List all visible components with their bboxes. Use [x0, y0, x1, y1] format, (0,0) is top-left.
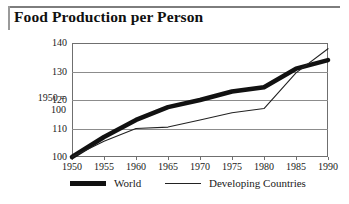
chart-figure: Food Production per Person 1950 = 100 10…: [0, 0, 349, 204]
x-tick-mark-1970: [200, 157, 201, 160]
chart-legend: World Developing Countries: [0, 176, 349, 196]
y-tick-110: 110: [41, 124, 67, 134]
x-tick-mark-1960: [136, 157, 137, 160]
gridline-110: [72, 129, 328, 130]
x-tick-mark-1950: [72, 157, 73, 160]
thin-line-swatch-icon: [165, 183, 201, 184]
x-tick-1955: 1955: [87, 162, 121, 172]
x-tick-1975: 1975: [215, 162, 249, 172]
x-tick-1980: 1980: [247, 162, 281, 172]
x-tick-1985: 1985: [279, 162, 313, 172]
y-tick-120: 120: [41, 95, 67, 105]
x-tick-mark-1990: [328, 157, 329, 160]
x-tick-mark-1955: [104, 157, 105, 160]
thick-line-swatch-icon: [70, 181, 106, 186]
x-tick-mark-1975: [232, 157, 233, 160]
gridline-130: [72, 72, 328, 73]
x-tick-mark-1980: [264, 157, 265, 160]
legend-label-world: World: [114, 176, 141, 191]
x-tick-1950: 1950: [55, 162, 89, 172]
plot-area: 100110120130140 195019551960196519701975…: [0, 0, 349, 204]
y-tick-130: 130: [41, 67, 67, 77]
x-tick-1960: 1960: [119, 162, 153, 172]
x-tick-mark-1985: [296, 157, 297, 160]
y-tick-140: 140: [41, 38, 67, 48]
x-tick-1990: 1990: [311, 162, 345, 172]
x-tick-1965: 1965: [151, 162, 185, 172]
legend-label-developing-countries: Developing Countries: [209, 176, 306, 191]
x-tick-1970: 1970: [183, 162, 217, 172]
gridline-120: [72, 100, 328, 101]
x-tick-mark-1965: [168, 157, 169, 160]
